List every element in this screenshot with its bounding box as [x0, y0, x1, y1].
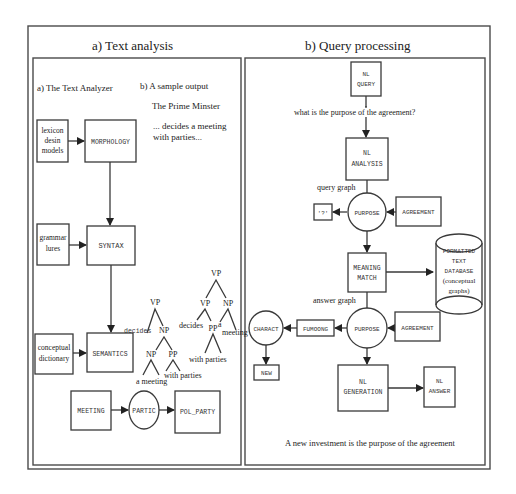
svg-text:meeting: meeting: [222, 328, 248, 337]
svg-text:NL: NL: [359, 379, 367, 386]
svg-text:dictionary: dictionary: [39, 354, 70, 363]
svg-text:a meeting: a meeting: [136, 377, 167, 386]
svg-text:MATCH: MATCH: [357, 275, 377, 282]
text-database-cylinder: FORMATTED TEXT DATABASE (conceptual grap…: [436, 234, 482, 314]
svg-text:POL_PARTY: POL_PARTY: [180, 409, 215, 416]
panel-a-title: a) Text analysis: [92, 38, 173, 53]
agreement-box-2: AGREEMENT: [395, 312, 440, 341]
purpose-circle-1: PURPOSE: [348, 193, 386, 231]
sample-line-1: The Prime Minster: [152, 101, 220, 111]
svg-text:QUERY: QUERY: [357, 81, 375, 88]
diagram-canvas: a) Text analysis b) Query processing a) …: [0, 0, 516, 494]
new-box: NEW: [254, 365, 279, 380]
pol-party-box: POL_PARTY: [175, 391, 220, 433]
sample-line-2: ... decides a meeting: [153, 121, 227, 131]
svg-text:NL: NL: [363, 150, 371, 157]
svg-text:FORMATTED: FORMATTED: [443, 248, 476, 255]
svg-text:SEMANTICS: SEMANTICS: [92, 351, 127, 358]
syntax-box: SYNTAX: [87, 226, 135, 265]
svg-text:decides: decides: [179, 321, 203, 330]
svg-text:MEETING: MEETING: [77, 408, 104, 415]
svg-text:NP: NP: [159, 326, 170, 335]
svg-text:VP: VP: [211, 269, 222, 278]
svg-text:AGREEMENT: AGREEMENT: [402, 209, 435, 216]
svg-text:AGREEMENT: AGREEMENT: [401, 325, 434, 332]
purpose-circle-2: PURPOSE: [347, 308, 387, 348]
nl-generation-box: NL GENERATION: [338, 365, 388, 411]
svg-text:decides: decides: [124, 328, 151, 335]
svg-text:PURPOSE: PURPOSE: [354, 326, 380, 333]
partic-circle: PARTIC: [129, 391, 159, 429]
svg-text:FUMOONG: FUMOONG: [303, 326, 329, 333]
unknown-referent-box: '?': [314, 204, 332, 220]
answer-graph-label: answer graph: [313, 296, 356, 305]
svg-text:PP: PP: [169, 350, 178, 359]
nl-analysis-box: NL ANALYSIS: [346, 138, 388, 180]
svg-text:models: models: [42, 146, 64, 155]
sample-output-label: b) A sample output: [140, 81, 209, 91]
svg-text:desin: desin: [45, 136, 61, 145]
svg-text:PP: PP: [209, 324, 218, 333]
meaning-match-box: MEANING MATCH: [348, 253, 386, 292]
svg-text:ANALYSIS: ANALYSIS: [351, 161, 382, 168]
question-text: what is the purpose of the agreement?: [294, 108, 416, 117]
charact-circle: CHARACT: [249, 311, 283, 345]
svg-text:conceptual: conceptual: [38, 343, 70, 352]
svg-text:lures: lures: [46, 244, 61, 253]
svg-text:graphs): graphs): [449, 287, 471, 295]
answer-sentence: A new investment is the purpose of the a…: [285, 438, 456, 448]
svg-text:NP: NP: [223, 299, 234, 308]
svg-text:SYNTAX: SYNTAX: [98, 242, 124, 250]
conceptual-dictionary-box: conceptual dictionary: [35, 334, 73, 374]
svg-text:DATABASE: DATABASE: [445, 268, 474, 275]
nl-answer-box: NL ANSWER: [424, 367, 455, 407]
query-graph-label: query graph: [317, 183, 355, 192]
svg-text:NP: NP: [146, 350, 157, 359]
text-analyzer-label: a) The Text Analyzer: [37, 83, 113, 93]
svg-text:VP: VP: [200, 299, 211, 308]
svg-text:PURPOSE: PURPOSE: [354, 210, 380, 217]
svg-text:MEANING: MEANING: [353, 265, 380, 272]
morphology-box: MORPHOLOGY: [85, 120, 136, 162]
svg-text:NL: NL: [362, 71, 370, 78]
panel-b-title: b) Query processing: [305, 38, 411, 53]
svg-text:lexicon: lexicon: [41, 126, 63, 135]
svg-text:with parties: with parties: [189, 355, 227, 364]
svg-text:ANSWER: ANSWER: [429, 388, 451, 395]
sample-line-3: with parties...: [153, 132, 202, 142]
svg-text:MORPHOLOGY: MORPHOLOGY: [91, 139, 130, 146]
svg-text:with parties: with parties: [164, 371, 202, 380]
svg-text:TEXT: TEXT: [452, 258, 467, 265]
svg-text:(conceptual: (conceptual: [443, 277, 476, 285]
nl-query-box: NL QUERY: [351, 62, 381, 96]
parse-tree-2: VP VP NP decides PP a meeting with parti…: [179, 269, 248, 364]
semantics-box: SEMANTICS: [87, 333, 133, 372]
svg-text:PARTIC: PARTIC: [132, 408, 156, 415]
svg-text:CHARACT: CHARACT: [253, 326, 279, 333]
svg-text:grammar: grammar: [39, 233, 67, 242]
svg-text:GENERATION: GENERATION: [343, 389, 382, 396]
svg-text:NL: NL: [436, 378, 444, 385]
svg-text:NEW: NEW: [261, 370, 272, 377]
meeting-box: MEETING: [71, 391, 111, 430]
grammar-box: grammar lures: [37, 224, 69, 265]
lexicon-box: lexicon desin models: [37, 120, 68, 162]
agreement-box-1: AGREEMENT: [396, 197, 441, 226]
parse-tree-1: VP decides NP NP PP a meeting with parti…: [124, 298, 202, 386]
svg-text:VP: VP: [150, 298, 161, 307]
fumoong-box: FUMOONG: [297, 320, 334, 336]
svg-text:'?': '?': [318, 210, 329, 217]
